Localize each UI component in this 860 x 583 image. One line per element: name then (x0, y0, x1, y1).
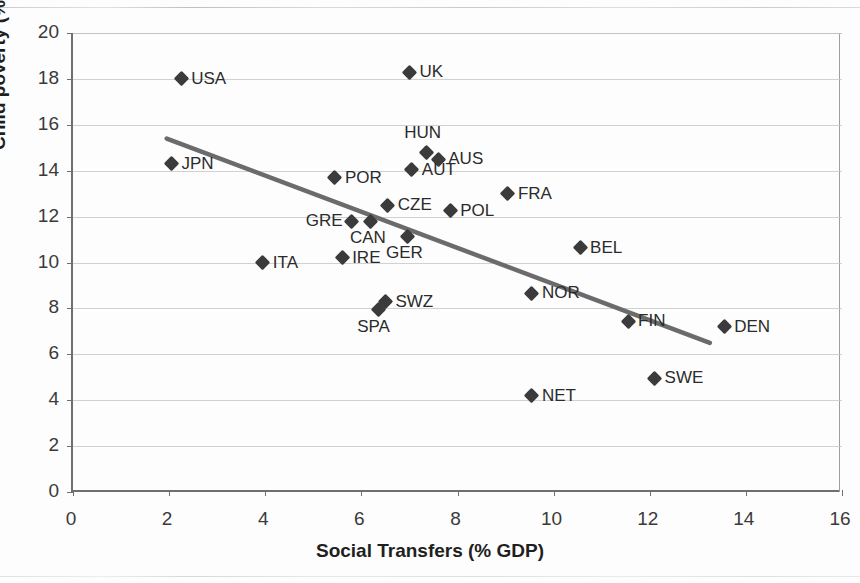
data-label-hun: HUN (404, 123, 441, 143)
y-tick-mark (67, 79, 73, 80)
data-label-pol: POL (460, 201, 494, 221)
y-tick-mark (67, 125, 73, 126)
y-tick-label-20: 20 (38, 21, 59, 43)
data-label-por: POR (345, 168, 382, 188)
data-label-cze: CZE (398, 195, 432, 215)
scan-artifact-bottom (0, 576, 860, 577)
y-axis-title: Child poverty (%) (0, 0, 10, 150)
y-tick-label-18: 18 (38, 67, 59, 89)
x-tick-label-6: 6 (329, 508, 389, 530)
data-label-swe: SWE (665, 368, 704, 388)
y-tick-label-16: 16 (38, 113, 59, 135)
x-tick-mark (746, 490, 747, 496)
data-label-ire: IRE (352, 248, 380, 268)
data-label-aut: AUT (422, 160, 456, 180)
x-tick-mark (73, 490, 74, 496)
data-label-net: NET (542, 386, 576, 406)
y-tick-mark (67, 263, 73, 264)
x-tick-mark (458, 490, 459, 496)
scan-artifact-top (0, 7, 860, 8)
data-label-spa: SPA (357, 317, 390, 337)
data-point-jpn[interactable] (164, 156, 180, 172)
plot-area: USAUKJPNHUNAUSAUTPORFRACZEPOLGRECANGERBE… (71, 33, 840, 492)
y-tick-label-6: 6 (48, 342, 59, 364)
y-tick-label-12: 12 (38, 205, 59, 227)
y-tick-mark (67, 217, 73, 218)
x-tick-label-2: 2 (137, 508, 197, 530)
data-label-fin: FIN (638, 311, 665, 331)
gridline (73, 217, 842, 218)
x-tick-label-0: 0 (41, 508, 101, 530)
gridline (73, 308, 842, 309)
data-label-den: DEN (734, 317, 770, 337)
data-label-usa: USA (191, 69, 226, 89)
y-tick-mark (67, 33, 73, 34)
x-tick-label-10: 10 (522, 508, 582, 530)
x-tick-mark (842, 490, 843, 496)
x-tick-mark (265, 490, 266, 496)
data-label-can: CAN (350, 228, 386, 248)
data-point-por[interactable] (327, 170, 343, 186)
x-tick-mark (169, 490, 170, 496)
x-tick-label-4: 4 (233, 508, 293, 530)
data-point-nor[interactable] (524, 286, 540, 302)
data-label-gre: GRE (306, 211, 343, 231)
data-label-jpn: JPN (182, 154, 214, 174)
data-label-ger: GER (386, 243, 423, 263)
y-tick-label-2: 2 (48, 434, 59, 456)
gridline (73, 33, 842, 34)
data-point-aut[interactable] (404, 162, 420, 178)
x-tick-mark (554, 490, 555, 496)
y-tick-mark (67, 400, 73, 401)
y-tick-label-8: 8 (48, 296, 59, 318)
data-label-ita: ITA (273, 253, 298, 273)
y-tick-mark (67, 308, 73, 309)
y-tick-mark (67, 171, 73, 172)
gridline (73, 263, 842, 264)
data-label-nor: NOR (542, 283, 580, 303)
data-point-ita[interactable] (255, 255, 271, 271)
x-tick-label-8: 8 (426, 508, 486, 530)
x-tick-mark (650, 490, 651, 496)
data-point-fin[interactable] (620, 313, 636, 329)
data-point-den[interactable] (716, 319, 732, 335)
y-tick-mark (67, 354, 73, 355)
gridline (73, 125, 842, 126)
data-label-uk: UK (419, 62, 443, 82)
chart-figure: 02468101214161820 0246810121416 Child po… (0, 0, 860, 583)
x-tick-label-12: 12 (618, 508, 678, 530)
gridline (73, 400, 842, 401)
data-point-uk[interactable] (402, 64, 418, 80)
data-point-bel[interactable] (572, 240, 588, 256)
y-tick-label-14: 14 (38, 159, 59, 181)
y-tick-label-10: 10 (38, 251, 59, 273)
data-point-ger[interactable] (399, 228, 415, 244)
y-tick-label-4: 4 (48, 388, 59, 410)
y-tick-mark (67, 446, 73, 447)
data-point-cze[interactable] (380, 197, 396, 213)
data-label-fra: FRA (518, 184, 552, 204)
x-tick-label-16: 16 (810, 508, 860, 530)
x-axis-title: Social Transfers (% GDP) (0, 540, 860, 562)
data-point-fra[interactable] (500, 186, 516, 202)
data-label-swz: SWZ (395, 292, 433, 312)
x-tick-label-14: 14 (714, 508, 774, 530)
data-point-swe[interactable] (647, 371, 663, 387)
data-point-usa[interactable] (173, 71, 189, 87)
data-label-bel: BEL (590, 238, 622, 258)
gridline (73, 446, 842, 447)
y-tick-label-0: 0 (48, 480, 59, 502)
x-tick-mark (361, 490, 362, 496)
gridline (73, 354, 842, 355)
